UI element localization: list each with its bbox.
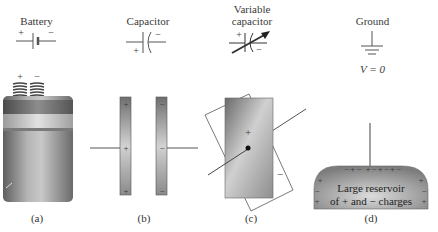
plate-left-charge-top: + <box>121 98 131 110</box>
variable-capacitor-symbol-minus: − <box>254 44 264 56</box>
reservoir-label-line2: of + and − charges <box>320 195 422 207</box>
battery-title: Battery <box>9 15 64 27</box>
caption-c: (c) <box>236 212 266 224</box>
plate-right-charge-middle: − <box>157 142 167 154</box>
reservoir-surface-charges: −+− +−+−+− <box>330 163 416 175</box>
ground-potential-label: V = 0 <box>345 63 400 75</box>
capacitor-symbol-plus: + <box>131 45 141 57</box>
caption-a: (a) <box>22 212 52 224</box>
battery-terminal-minus: − <box>32 71 42 83</box>
capacitor-title: Capacitor <box>118 15 178 27</box>
plate-left-charge-middle: + <box>121 142 131 154</box>
battery-terminal-plus: + <box>15 71 25 83</box>
variable-capacitor-title-line2: capacitor <box>222 15 282 27</box>
battery-illustration <box>3 83 73 202</box>
front-plate-charge: + <box>243 126 253 138</box>
battery-symbol-minus: − <box>46 27 56 39</box>
caption-d: (d) <box>356 212 386 224</box>
plate-right-charge-bottom: − <box>157 185 167 197</box>
plate-right-charge-top: − <box>157 98 167 110</box>
capacitor-symbol-minus: − <box>153 29 163 41</box>
ground-symbol <box>361 31 383 54</box>
ground-title: Ground <box>345 15 400 27</box>
battery-symbol-plus: + <box>16 27 26 39</box>
capacitor-plates <box>90 97 198 195</box>
variable-capacitor-plates <box>205 94 306 211</box>
caption-b: (b) <box>129 212 159 224</box>
back-plate-charge: − <box>275 168 285 180</box>
variable-capacitor-title-line1: Variable <box>222 3 282 15</box>
battery-terminal-springs <box>13 83 44 96</box>
variable-capacitor-symbol-plus: + <box>234 29 244 41</box>
reservoir-label-line1: Large reservoir <box>326 182 416 194</box>
plate-left-charge-bottom: + <box>121 185 131 197</box>
